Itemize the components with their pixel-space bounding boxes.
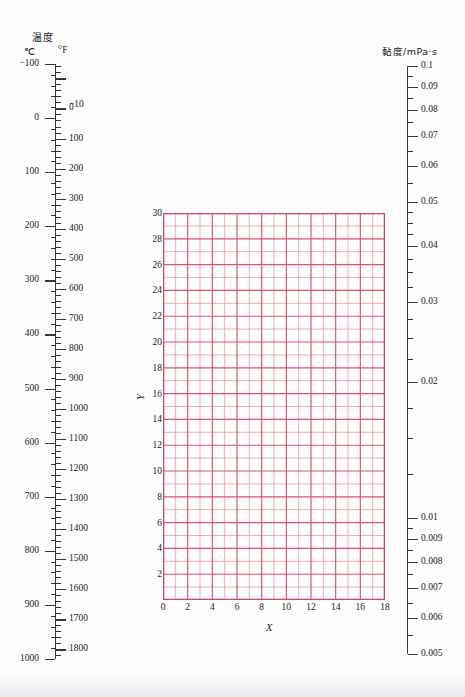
- fahrenheit-major-tick: [56, 589, 66, 590]
- fahrenheit-minor-tick: [56, 331, 61, 332]
- viscosity-minor-tick: [408, 259, 413, 260]
- celsius-major-tick: [45, 64, 55, 65]
- y-tick-label: 10: [153, 466, 163, 476]
- fahrenheit-minor-tick: [56, 295, 61, 296]
- viscosity-minor-tick: [408, 183, 413, 184]
- x-tick-label: 14: [331, 602, 341, 612]
- viscosity-major-tick: [408, 166, 418, 167]
- celsius-major-tick: [45, 497, 55, 498]
- celsius-major-tick: [45, 334, 55, 335]
- fahrenheit-tick-label: 600: [69, 284, 83, 294]
- fahrenheit-major-tick: [56, 379, 66, 380]
- fahrenheit-minor-tick: [56, 433, 61, 434]
- viscosity-major-tick: [408, 382, 418, 383]
- fahrenheit-minor-tick: [56, 391, 61, 392]
- fahrenheit-minor-tick: [56, 415, 61, 416]
- fahrenheit-minor-tick: [56, 625, 61, 626]
- y-tick-label: 12: [153, 440, 163, 450]
- fahrenheit-minor-tick: [56, 343, 61, 344]
- fahrenheit-tick-label: 900: [69, 374, 83, 384]
- fahrenheit-tick-label: 800: [69, 344, 83, 354]
- y-axis-title: Y: [135, 394, 146, 400]
- fahrenheit-tick-label: 1800: [69, 645, 88, 655]
- fahrenheit-tick-label: 1700: [69, 615, 88, 625]
- celsius-minor-tick: [51, 324, 56, 325]
- viscosity-minor-tick: [408, 76, 413, 77]
- celsius-major-tick: [45, 389, 55, 390]
- fahrenheit-minor-tick: [56, 241, 61, 242]
- fahrenheit-minor-tick: [56, 283, 61, 284]
- viscosity-scale: 黏度/mPa·s 0.10.090.080.070.060.050.040.03…: [380, 0, 465, 697]
- viscosity-tick-label: 0.007: [421, 583, 442, 593]
- fahrenheit-minor-tick: [56, 253, 61, 254]
- y-tick-label: 20: [153, 337, 163, 347]
- y-tick-label: 6: [157, 518, 162, 528]
- viscosity-minor-tick: [408, 223, 413, 224]
- fahrenheit-minor-tick: [56, 397, 61, 398]
- celsius-minor-tick: [51, 432, 56, 433]
- fahrenheit-minor-tick: [56, 553, 61, 554]
- viscosity-minor-tick: [408, 98, 413, 99]
- celsius-tick-label: 1000: [20, 654, 39, 664]
- fahrenheit-tick-label: 1500: [69, 554, 88, 564]
- fahrenheit-minor-tick: [56, 535, 61, 536]
- y-tick-label: 16: [153, 389, 163, 399]
- fahrenheit-minor-tick: [56, 163, 61, 164]
- nomogram-page: 温度 ℃ °F −1000100200300400500600700800900…: [0, 0, 465, 697]
- fahrenheit-minor-tick: [56, 127, 61, 128]
- celsius-tick-label: 600: [25, 438, 39, 448]
- fahrenheit-minor-tick: [56, 421, 61, 422]
- fahrenheit-minor-tick: [56, 481, 61, 482]
- y-axis-tick-labels: 24681012141618202224262830: [140, 213, 162, 600]
- celsius-minor-tick: [51, 518, 56, 519]
- celsius-minor-tick: [51, 140, 56, 141]
- fahrenheit-minor-tick: [56, 505, 61, 506]
- viscosity-minor-tick: [408, 528, 413, 529]
- celsius-unit-label: ℃: [24, 46, 36, 57]
- viscosity-label-group: 0.10.090.080.070.060.050.040.030.020.010…: [421, 66, 465, 654]
- viscosity-minor-tick: [408, 550, 413, 551]
- plot-grid-area: [163, 213, 385, 600]
- viscosity-minor-tick: [408, 122, 413, 123]
- fahrenheit-major-tick: [56, 529, 66, 530]
- fahrenheit-major-tick: [56, 139, 66, 140]
- fahrenheit-minor-tick: [56, 601, 61, 602]
- celsius-minor-tick: [51, 194, 56, 195]
- fahrenheit-minor-tick: [56, 277, 61, 278]
- fahrenheit-major-tick: [56, 199, 66, 200]
- celsius-minor-tick: [51, 616, 56, 617]
- fahrenheit-major-tick: [56, 559, 66, 560]
- viscosity-minor-tick: [408, 234, 413, 235]
- fahrenheit-minor-tick: [56, 637, 61, 638]
- fahrenheit-tick-label: 1000: [69, 404, 88, 414]
- viscosity-minor-tick: [408, 212, 413, 213]
- fahrenheit-tick-label: 700: [69, 314, 83, 324]
- celsius-minor-tick: [51, 237, 56, 238]
- celsius-minor-tick: [51, 215, 56, 216]
- fahrenheit-minor-tick: [56, 157, 61, 158]
- fahrenheit-major-tick: [56, 469, 66, 470]
- fahrenheit-tick-label: 500: [69, 254, 83, 264]
- fahrenheit-major-tick: [56, 319, 66, 320]
- viscosity-tick-group: [408, 66, 422, 654]
- celsius-minor-tick: [51, 107, 56, 108]
- fahrenheit-tick-label: 1600: [69, 585, 88, 595]
- fahrenheit-minor-tick: [56, 211, 61, 212]
- y-tick-label: 8: [157, 492, 162, 502]
- y-tick-label: 30: [153, 208, 163, 218]
- fahrenheit-minor-tick: [56, 307, 61, 308]
- fahrenheit-minor-tick: [56, 120, 61, 121]
- viscosity-minor-tick: [408, 574, 413, 575]
- viscosity-major-tick: [408, 539, 418, 540]
- fahrenheit-minor-tick: [56, 607, 61, 608]
- fahrenheit-minor-tick: [56, 403, 61, 404]
- fahrenheit-minor-tick: [56, 313, 61, 314]
- viscosity-major-tick: [408, 136, 418, 137]
- viscosity-minor-tick: [408, 408, 413, 409]
- celsius-major-tick: [45, 443, 55, 444]
- y-tick-label: 14: [153, 414, 163, 424]
- fahrenheit-minor-tick: [56, 565, 61, 566]
- celsius-minor-tick: [51, 475, 56, 476]
- viscosity-major-tick: [408, 302, 418, 303]
- celsius-major-tick: [45, 551, 55, 552]
